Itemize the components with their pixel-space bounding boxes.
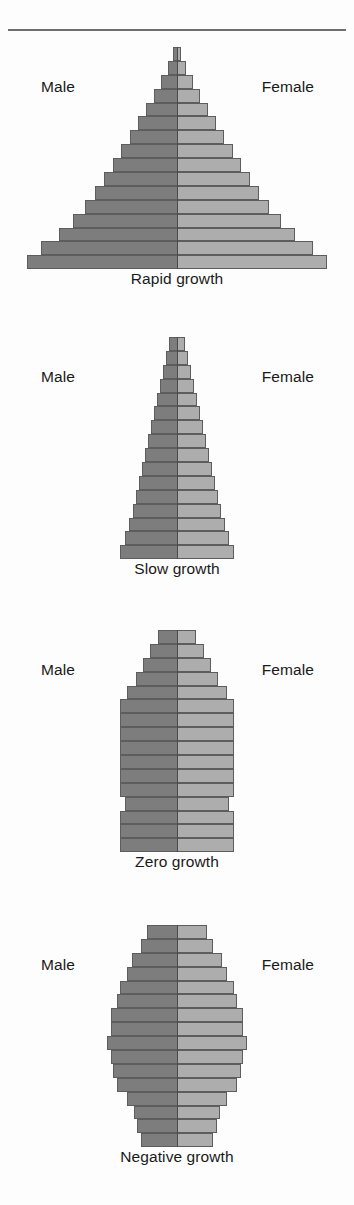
pyramid-row xyxy=(0,1106,354,1120)
pyramid-axis-line xyxy=(177,420,178,434)
bar-female xyxy=(177,981,234,995)
pyramid-row xyxy=(0,686,354,700)
pyramid-rows-rapid xyxy=(0,47,354,269)
bar-female xyxy=(177,925,207,939)
pyramid-row xyxy=(0,741,354,755)
pyramid-axis-line xyxy=(177,797,178,811)
bar-male xyxy=(125,531,177,545)
bar-male xyxy=(160,379,177,393)
bar-female xyxy=(177,699,234,713)
bar-female xyxy=(177,545,234,559)
pyramid-axis-line xyxy=(177,504,178,518)
pyramid-row xyxy=(0,672,354,686)
pyramid-row xyxy=(0,967,354,981)
pyramid-row xyxy=(0,200,354,214)
bar-male xyxy=(120,811,177,825)
pyramid-row xyxy=(0,838,354,852)
pyramid-axis-line xyxy=(177,741,178,755)
pyramid-axis-line xyxy=(177,61,178,75)
pyramid-row xyxy=(0,47,354,61)
bar-male xyxy=(168,61,177,75)
bar-male xyxy=(154,406,177,420)
pyramid-row xyxy=(0,75,354,89)
bar-female xyxy=(177,783,234,797)
pyramid-rows-zero xyxy=(0,630,354,852)
pyramid-row xyxy=(0,1050,354,1064)
pyramid-row xyxy=(0,727,354,741)
pyramid-row xyxy=(0,1078,354,1092)
bar-female xyxy=(177,769,234,783)
bar-female xyxy=(177,967,227,981)
bar-male xyxy=(59,228,177,242)
bar-female xyxy=(177,365,191,379)
caption-rapid-growth: Rapid growth xyxy=(0,270,354,288)
pyramid-row xyxy=(0,1036,354,1050)
bar-female xyxy=(177,1133,213,1147)
pyramid-axis-line xyxy=(177,241,178,255)
bar-male xyxy=(130,130,177,144)
bar-female xyxy=(177,1078,237,1092)
pyramid-row xyxy=(0,925,354,939)
bar-male xyxy=(117,1078,177,1092)
pyramid-row xyxy=(0,337,354,351)
pyramid-row xyxy=(0,755,354,769)
bar-female xyxy=(177,644,204,658)
top-divider-rule xyxy=(8,29,346,31)
bar-female xyxy=(177,241,313,255)
bar-female xyxy=(177,797,229,811)
pyramid-row xyxy=(0,824,354,838)
pyramid-row xyxy=(0,769,354,783)
pyramid-row xyxy=(0,255,354,269)
pyramid-axis-line xyxy=(177,214,178,228)
bar-male xyxy=(127,1092,177,1106)
pyramid-row xyxy=(0,518,354,532)
pyramid-row xyxy=(0,130,354,144)
pyramid-axis-line xyxy=(177,939,178,953)
pyramid-row xyxy=(0,172,354,186)
bar-female xyxy=(177,1036,247,1050)
bar-female xyxy=(177,1008,243,1022)
pyramid-axis-line xyxy=(177,1106,178,1120)
bar-female xyxy=(177,741,234,755)
pyramid-axis-line xyxy=(177,994,178,1008)
bar-female xyxy=(177,186,259,200)
bar-male xyxy=(154,89,177,103)
bar-female xyxy=(177,686,227,700)
bar-male xyxy=(150,644,177,658)
pyramid-rows-negative xyxy=(0,925,354,1147)
pyramid-axis-line xyxy=(177,755,178,769)
pyramid-row xyxy=(0,103,354,117)
bar-male xyxy=(120,838,177,852)
pyramid-axis-line xyxy=(177,434,178,448)
pyramid-axis-line xyxy=(177,365,178,379)
bar-male xyxy=(120,824,177,838)
pyramid-axis-line xyxy=(177,727,178,741)
pyramid-axis-line xyxy=(177,490,178,504)
pyramid-row xyxy=(0,406,354,420)
pyramid-axis-line xyxy=(177,1050,178,1064)
bar-female xyxy=(177,755,234,769)
pyramid-row xyxy=(0,1064,354,1078)
bar-female xyxy=(177,838,234,852)
bar-male xyxy=(111,1022,177,1036)
bar-female xyxy=(177,939,213,953)
bar-male xyxy=(127,967,177,981)
pyramid-row xyxy=(0,379,354,393)
bar-male xyxy=(127,686,177,700)
bar-male xyxy=(147,925,177,939)
bar-female xyxy=(177,1106,220,1120)
caption-zero-growth: Zero growth xyxy=(0,853,354,871)
pyramid-axis-line xyxy=(177,953,178,967)
bar-female xyxy=(177,158,241,172)
pyramid-axis-line xyxy=(177,130,178,144)
bar-female xyxy=(177,1092,227,1106)
pyramid-axis-line xyxy=(177,462,178,476)
bar-female xyxy=(177,393,197,407)
bar-male xyxy=(145,448,177,462)
pyramid-axis-line xyxy=(177,116,178,130)
bar-female xyxy=(177,672,218,686)
bar-female xyxy=(177,1022,243,1036)
bar-male xyxy=(107,1036,177,1050)
pyramid-row xyxy=(0,116,354,130)
bar-male xyxy=(142,462,177,476)
